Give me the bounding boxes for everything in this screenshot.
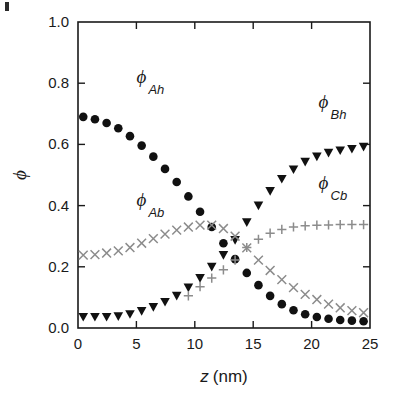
marker-circle	[278, 300, 287, 309]
series-label-Ah: ϕAh	[136, 66, 164, 97]
y-tick-label-0.2: 0.2	[48, 258, 69, 275]
y-tick-label-1.0: 1.0	[48, 13, 69, 30]
marker-triangle-down	[137, 307, 147, 316]
y-tick-label-0.0: 0.0	[48, 319, 69, 336]
marker-plus	[254, 235, 263, 244]
marker-plus	[195, 282, 204, 291]
marker-triangle-down	[90, 313, 100, 322]
marker-x	[149, 234, 158, 243]
series-label-symbol-Ab: ϕ	[136, 189, 146, 210]
marker-plus	[312, 221, 321, 230]
marker-x	[126, 243, 135, 252]
marker-triangle-down	[242, 218, 252, 227]
series-Bh	[78, 143, 368, 322]
marker-circle	[301, 310, 310, 319]
marker-circle	[102, 119, 111, 128]
series-label-symbol-Bh: ϕ	[319, 91, 329, 112]
marker-triangle-down	[195, 274, 205, 283]
y-tick-label-0.4: 0.4	[48, 197, 69, 214]
marker-triangle-down	[125, 310, 135, 319]
series-label-symbol-Cb: ϕ	[319, 172, 329, 193]
series-label-Cb: ϕCb	[319, 172, 348, 203]
marker-triangle-down	[335, 146, 345, 155]
marker-x	[359, 308, 368, 317]
marker-plus	[266, 229, 275, 238]
marker-circle	[137, 141, 146, 150]
marker-circle	[196, 207, 205, 216]
marker-circle	[172, 178, 181, 187]
marker-plus	[219, 265, 228, 274]
marker-plus	[301, 221, 310, 230]
x-axis-title-symbol: z	[199, 367, 209, 386]
marker-circle	[336, 316, 345, 325]
x-tick-label-20: 20	[303, 335, 320, 352]
marker-plus	[184, 291, 193, 300]
marker-x	[137, 239, 146, 248]
marker-triangle-down	[172, 292, 182, 301]
marker-circle	[79, 113, 88, 122]
marker-triangle-down	[300, 158, 310, 167]
marker-x	[347, 306, 356, 315]
x-tick-label-10: 10	[186, 335, 203, 352]
marker-x	[114, 246, 123, 255]
marker-triangle-down	[359, 143, 369, 152]
marker-circle	[289, 306, 298, 315]
marker-circle	[266, 292, 275, 301]
marker-triangle-down	[277, 175, 287, 184]
marker-triangle-down	[184, 284, 194, 293]
marker-circle	[219, 239, 228, 248]
marker-triangle-down	[149, 303, 159, 312]
series-label-subscript-Cb: Cb	[331, 188, 348, 203]
marker-circle	[184, 192, 193, 201]
marker-triangle-down	[113, 312, 123, 321]
marker-circle	[126, 132, 135, 141]
x-axis-title-unit: (nm)	[213, 367, 248, 386]
marker-plus	[359, 220, 368, 229]
series-label-Ab: ϕAb	[136, 189, 164, 220]
x-tick-label-0: 0	[74, 335, 82, 352]
marker-circle	[114, 124, 123, 133]
marker-x	[312, 295, 321, 304]
marker-plus	[277, 225, 286, 234]
marker-triangle-down	[324, 149, 334, 158]
marker-plus	[336, 220, 345, 229]
y-axis-title: ϕ	[9, 170, 30, 180]
marker-triangle-down	[207, 263, 217, 272]
series-label-symbol-Ah: ϕ	[136, 66, 146, 87]
marker-x	[219, 224, 228, 233]
x-tick-label-15: 15	[245, 335, 262, 352]
x-axis-title: z(nm)	[199, 367, 247, 386]
marker-x	[91, 250, 100, 259]
marker-x	[184, 223, 193, 232]
marker-x	[277, 275, 286, 284]
series-label-subscript-Bh: Bh	[331, 107, 347, 122]
marker-plus	[207, 274, 216, 283]
x-tick-label-25: 25	[362, 335, 379, 352]
marker-triangle-down	[78, 313, 88, 322]
marker-plus	[347, 220, 356, 229]
marker-x	[289, 283, 298, 292]
marker-x	[254, 256, 263, 265]
marker-triangle-down	[289, 165, 299, 174]
marker-x	[79, 251, 88, 260]
figure-root: 05101520250.00.20.40.60.81.0z(nm)ϕϕAhϕBh…	[0, 0, 396, 400]
series-label-subscript-Ah: Ah	[147, 82, 164, 97]
marker-circle	[91, 115, 100, 124]
marker-triangle-down	[347, 145, 357, 154]
marker-x	[196, 221, 205, 230]
marker-x	[324, 300, 333, 309]
marker-x	[102, 249, 111, 258]
marker-x	[301, 290, 310, 299]
marker-circle	[207, 223, 216, 232]
scatter-plot-canvas: 05101520250.00.20.40.60.81.0z(nm)ϕϕAhϕBh…	[0, 0, 396, 400]
marker-circle	[149, 152, 158, 161]
marker-triangle-down	[102, 313, 112, 322]
marker-x	[266, 266, 275, 275]
marker-triangle-down	[265, 187, 275, 196]
marker-x	[172, 226, 181, 235]
y-tick-label-0.6: 0.6	[48, 135, 69, 152]
scan-artifact-mark	[5, 2, 9, 11]
marker-circle	[242, 269, 251, 278]
marker-triangle-down	[312, 153, 322, 162]
series-label-subscript-Ab: Ab	[147, 205, 164, 220]
